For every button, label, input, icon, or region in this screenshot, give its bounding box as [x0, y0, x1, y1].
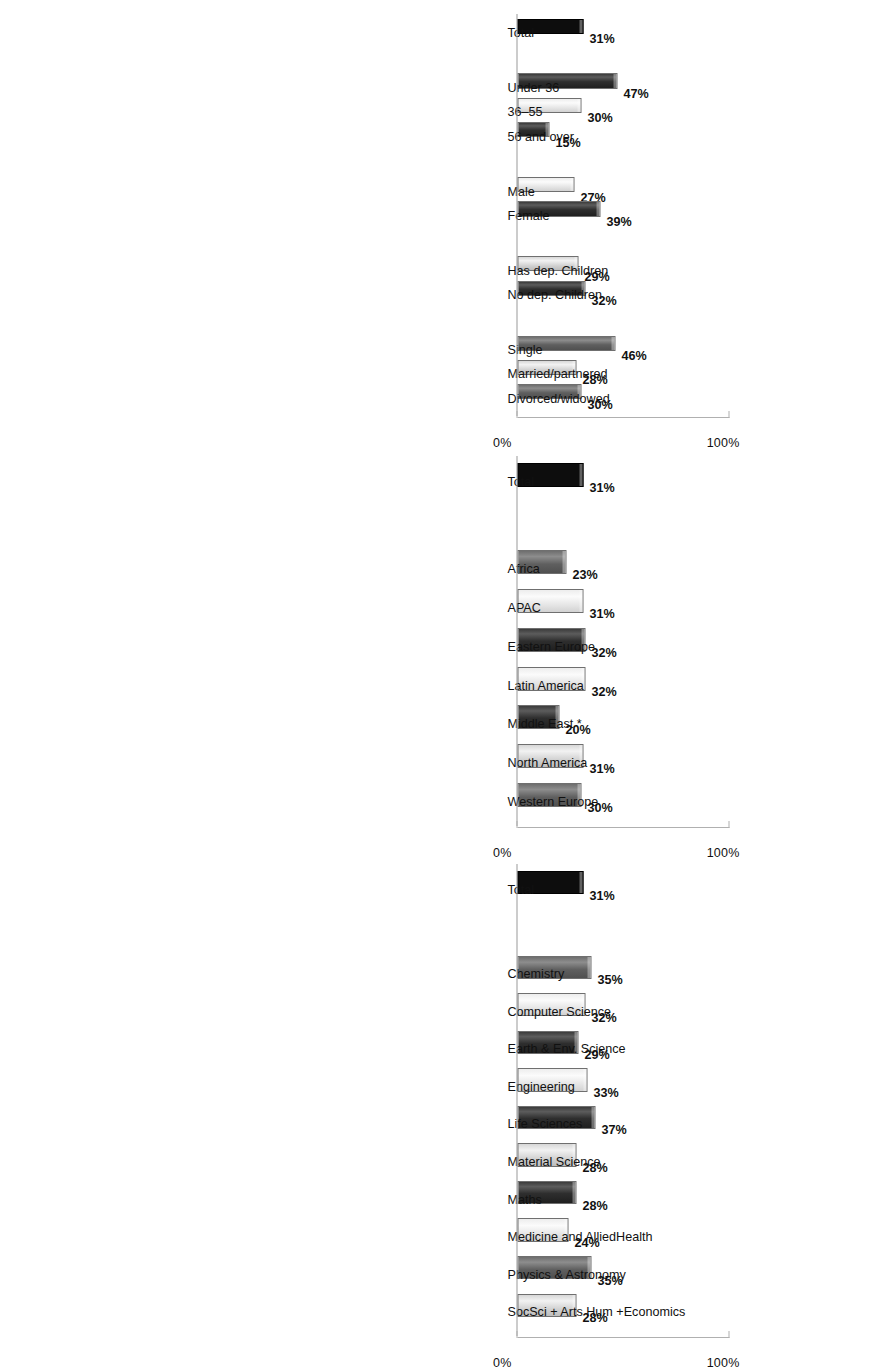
bar-slot: 27% [517, 172, 729, 196]
category-label: Middle East * [507, 717, 581, 731]
bar-slot: 31% [517, 456, 729, 495]
category-label-line2: Economics [623, 1305, 685, 1319]
category-label: Chemistry [507, 967, 564, 981]
category-label: Life Sciences [507, 1117, 582, 1131]
category-label: Latin America [507, 679, 583, 693]
category-label: Physics & Astronomy [507, 1268, 625, 1282]
category-label: Total [507, 26, 534, 40]
category-label: Female [507, 209, 549, 223]
bar-slot: 28% [517, 1174, 729, 1212]
category-label: 36–55 [507, 105, 542, 119]
bar-value-label: 32% [591, 685, 616, 699]
category-label: Maths [507, 1193, 541, 1207]
y-axis-label-min-disciplines: 0% [493, 1356, 511, 1370]
chart-panel-disciplines: 31%35%32%29%33%37%28%28%24%35%28% TotalC… [0, 858, 879, 1358]
y-axis-tick-max-disciplines [728, 1331, 729, 1338]
category-label: APAC [507, 601, 540, 615]
bar-value-label: 31% [589, 762, 614, 776]
category-label: Africa [507, 562, 539, 576]
category-label: Total [507, 883, 534, 897]
y-axis-tick-min-demographics [516, 411, 517, 418]
y-axis-line-disciplines [517, 1337, 729, 1338]
y-axis-tick-max-demographics [728, 411, 729, 418]
chart-panel-regions: 31%23%31%32%32%20%31%30% TotalAfricaAPAC… [0, 450, 879, 848]
y-axis-label-max-disciplines: 100% [706, 1356, 739, 1370]
bar-value-label: 31% [589, 607, 614, 621]
category-label: Single [507, 343, 542, 357]
bar-slot: 31% [517, 14, 729, 38]
bar-value-label: 39% [606, 215, 631, 229]
chart-panel-demographics: 31%47%30%15%27%39%29%32%46%28%30% TotalU… [0, 8, 879, 438]
category-label: Married/partnered [507, 367, 607, 381]
plot-area-disciplines: 31%35%32%29%33%37%28%28%24%35%28% TotalC… [499, 858, 729, 1358]
baseline-regions [516, 456, 517, 826]
category-label: Western Europe [507, 795, 598, 809]
category-labels-demographics: TotalUnder 3636–5556 and overMaleFemaleH… [313, 8, 513, 438]
category-label: Has dep. Children [507, 264, 608, 278]
category-label: No dep. Children [507, 288, 602, 302]
bar-slot: 31% [517, 864, 729, 902]
baseline-disciplines [516, 864, 517, 1336]
category-label: Under 36 [507, 81, 559, 95]
y-axis-tick-min-regions [516, 821, 517, 828]
y-axis-line-demographics [517, 417, 729, 418]
category-label: SocSci + Arts Hum +Economics [507, 1305, 685, 1319]
category-label-line1: SocSci + Arts Hum + [507, 1305, 623, 1319]
category-label: Computer Science [507, 1005, 611, 1019]
category-label: Material Science [507, 1155, 600, 1169]
category-label: Total [507, 475, 534, 489]
bar-value-label: 31% [589, 32, 614, 46]
category-label: North America [507, 756, 587, 770]
category-label-line2: Health [616, 1230, 652, 1244]
y-axis-tick-min-disciplines [516, 1331, 517, 1338]
category-label: Medicine and AlliedHealth [507, 1230, 652, 1244]
y-axis-line-regions [517, 827, 729, 828]
category-label: Eastern Europe [507, 640, 595, 654]
plot-area-regions: 31%23%31%32%32%20%31%30% TotalAfricaAPAC… [499, 450, 729, 848]
bar-slot: 46% [517, 331, 729, 355]
bar-value-label: 31% [589, 481, 614, 495]
category-label: Divorced/widowed [507, 392, 609, 406]
category-label-line1: Medicine and Allied [507, 1230, 616, 1244]
bar-value-label: 31% [589, 889, 614, 903]
y-axis-label-min-demographics: 0% [493, 436, 511, 450]
y-axis-tick-max-regions [728, 821, 729, 828]
bar-slot: 31% [517, 582, 729, 621]
bar-slot: 23% [517, 543, 729, 582]
bar-value-label: 23% [572, 568, 597, 582]
bar-slot: 30% [517, 93, 729, 117]
category-labels-disciplines: TotalChemistryComputer ScienceEarth & En… [313, 858, 513, 1358]
category-label: Male [507, 185, 534, 199]
plot-area-demographics: 31%47%30%15%27%39%29%32%46%28%30% TotalU… [499, 8, 729, 438]
baseline-demographics [516, 14, 517, 416]
y-axis-label-max-demographics: 100% [706, 436, 739, 450]
category-label: Earth & Env. Science [507, 1042, 625, 1056]
category-labels-regions: TotalAfricaAPACEastern EuropeLatin Ameri… [313, 450, 513, 848]
